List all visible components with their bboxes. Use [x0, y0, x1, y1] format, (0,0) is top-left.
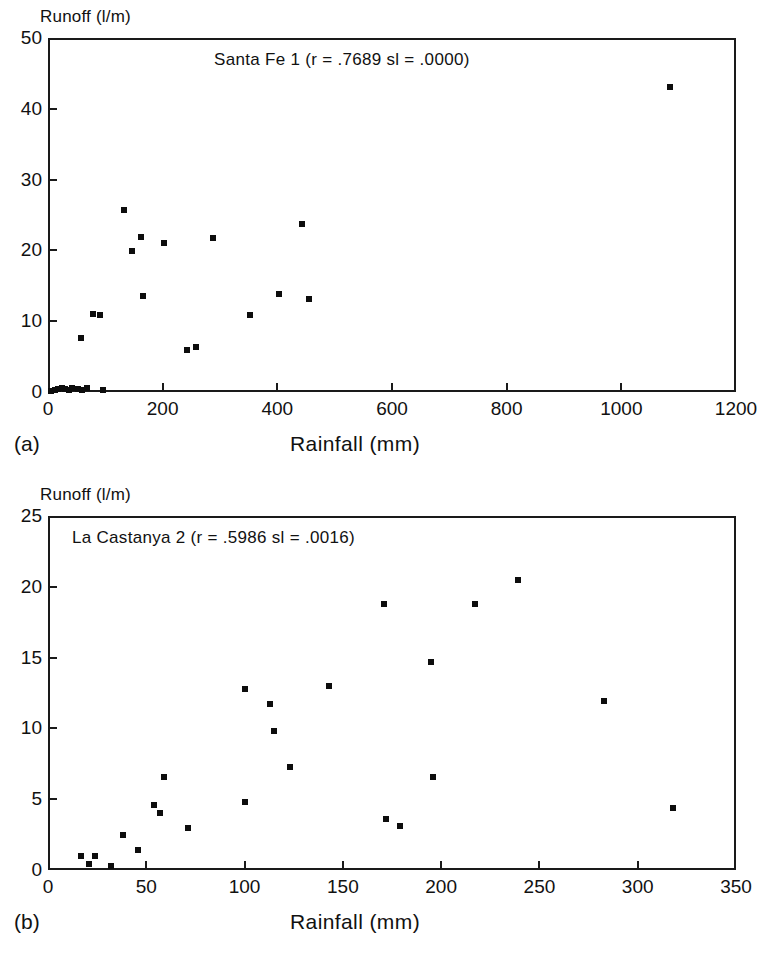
- y-tick-label: 20: [21, 576, 42, 598]
- x-tick-mark: [538, 861, 540, 870]
- x-tick-label: 200: [147, 398, 179, 420]
- data-point: [86, 861, 92, 867]
- data-point: [100, 387, 106, 393]
- data-point: [151, 802, 157, 808]
- chart-title-b: La Castanya 2 (r = .5986 sl = .0016): [72, 528, 355, 548]
- data-point: [242, 799, 248, 805]
- data-point: [78, 335, 84, 341]
- y-tick-mark: [48, 657, 57, 659]
- panel-label-a: (a): [14, 432, 40, 456]
- plot-area-a: [48, 38, 736, 392]
- x-tick-mark: [145, 861, 147, 870]
- data-point: [667, 84, 673, 90]
- x-tick-label: 0: [43, 398, 54, 420]
- x-tick-mark: [342, 861, 344, 870]
- data-point: [161, 240, 167, 246]
- data-point: [140, 293, 146, 299]
- y-tick-mark: [48, 798, 57, 800]
- x-tick-mark: [637, 861, 639, 870]
- x-tick-mark: [506, 383, 508, 392]
- y-tick-mark: [48, 727, 57, 729]
- data-point: [247, 312, 253, 318]
- data-point: [185, 825, 191, 831]
- y-tick-label: 30: [21, 169, 42, 191]
- data-point: [428, 659, 434, 665]
- data-point: [92, 853, 98, 859]
- data-point: [287, 764, 293, 770]
- data-point: [397, 823, 403, 829]
- x-tick-mark: [244, 861, 246, 870]
- x-tick-mark: [620, 383, 622, 392]
- chart-title-a: Santa Fe 1 (r = .7689 sl = .0000): [214, 50, 470, 70]
- y-tick-mark: [48, 108, 57, 110]
- y-tick-label: 5: [31, 788, 42, 810]
- x-tick-mark: [440, 861, 442, 870]
- data-point: [271, 728, 277, 734]
- y-axis-title-b: Runoff (l/m): [40, 485, 131, 505]
- x-tick-label: 0: [43, 876, 54, 898]
- data-point: [515, 577, 521, 583]
- x-tick-mark: [162, 383, 164, 392]
- y-tick-label: 10: [21, 310, 42, 332]
- y-tick-mark: [48, 320, 57, 322]
- data-point: [138, 234, 144, 240]
- x-tick-label: 200: [425, 876, 457, 898]
- data-point: [267, 701, 273, 707]
- data-point: [276, 291, 282, 297]
- y-tick-label: 10: [21, 717, 42, 739]
- y-tick-label: 50: [21, 27, 42, 49]
- x-tick-label: 350: [720, 876, 752, 898]
- y-tick-label: 0: [31, 859, 42, 881]
- y-tick-label: 40: [21, 98, 42, 120]
- y-tick-mark: [48, 586, 57, 588]
- data-point: [601, 698, 607, 704]
- figure-two-scatter-panels: Runoff (l/m) Santa Fe 1 (r = .7689 sl = …: [0, 0, 772, 956]
- x-tick-label: 150: [327, 876, 359, 898]
- data-point: [299, 221, 305, 227]
- data-point: [381, 601, 387, 607]
- x-tick-label: 1200: [715, 398, 757, 420]
- data-point: [78, 853, 84, 859]
- x-tick-label: 600: [376, 398, 408, 420]
- data-point: [193, 344, 199, 350]
- x-axis-title-a: Rainfall (mm): [290, 432, 420, 456]
- x-tick-label: 250: [524, 876, 556, 898]
- data-point: [120, 832, 126, 838]
- data-point: [121, 207, 127, 213]
- data-point: [84, 385, 90, 391]
- data-point: [430, 774, 436, 780]
- x-tick-mark: [276, 383, 278, 392]
- x-tick-label: 1000: [600, 398, 642, 420]
- panel-label-b: (b): [14, 910, 40, 934]
- x-tick-mark: [391, 383, 393, 392]
- y-tick-label: 15: [21, 647, 42, 669]
- data-point: [670, 805, 676, 811]
- panel-a: Runoff (l/m) Santa Fe 1 (r = .7689 sl = …: [0, 0, 772, 478]
- x-tick-label: 100: [229, 876, 261, 898]
- x-axis-title-b: Rainfall (mm): [290, 910, 420, 934]
- plot-area-b: [48, 516, 736, 870]
- y-tick-label: 0: [31, 381, 42, 403]
- x-tick-label: 400: [261, 398, 293, 420]
- data-point: [90, 311, 96, 317]
- panel-b: Runoff (l/m) La Castanya 2 (r = .5986 sl…: [0, 478, 772, 956]
- y-tick-mark: [48, 179, 57, 181]
- data-point: [472, 601, 478, 607]
- data-point: [210, 235, 216, 241]
- y-tick-label: 20: [21, 239, 42, 261]
- data-point: [135, 847, 141, 853]
- data-point: [97, 312, 103, 318]
- x-tick-label: 300: [622, 876, 654, 898]
- y-tick-label: 25: [21, 505, 42, 527]
- data-point: [306, 296, 312, 302]
- data-point: [108, 863, 114, 869]
- data-point: [383, 816, 389, 822]
- data-point: [326, 683, 332, 689]
- x-tick-label: 800: [491, 398, 523, 420]
- y-tick-mark: [48, 249, 57, 251]
- data-point: [161, 774, 167, 780]
- y-axis-title-a: Runoff (l/m): [40, 7, 131, 27]
- data-point: [129, 248, 135, 254]
- data-point: [242, 686, 248, 692]
- data-point: [184, 347, 190, 353]
